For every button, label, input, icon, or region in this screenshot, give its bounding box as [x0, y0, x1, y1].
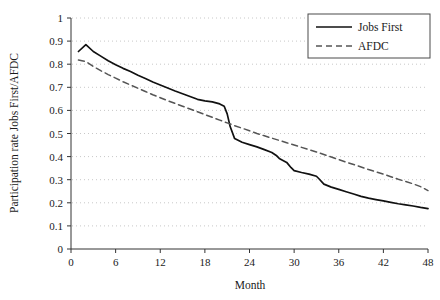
y-tick-label: 0: [58, 243, 64, 255]
x-tick-label: 42: [378, 256, 389, 268]
x-axis-title: Month: [235, 279, 266, 291]
legend-label-afdc: AFDC: [358, 40, 389, 52]
x-tick-label: 18: [199, 256, 211, 268]
y-tick-label: 0.7: [49, 81, 63, 93]
participation-rate-line-chart: 00.10.20.30.40.50.60.70.80.91 0612182430…: [0, 0, 440, 300]
x-tick-label: 6: [113, 256, 119, 268]
y-tick-label: 0.1: [49, 220, 63, 232]
chart-container: 00.10.20.30.40.50.60.70.80.91 0612182430…: [0, 0, 440, 300]
x-tick-label: 30: [289, 256, 301, 268]
legend: Jobs First AFDC: [308, 14, 430, 58]
legend-label-jobs-first: Jobs First: [358, 21, 403, 33]
y-tick-label: 1: [58, 12, 64, 24]
y-tick-label: 0.9: [49, 35, 63, 47]
y-axis-title: Participation rate Jobs First/AFDC: [8, 53, 21, 213]
x-tick-label: 24: [244, 256, 256, 268]
x-tick-label: 36: [333, 256, 345, 268]
y-tick-label: 0.6: [49, 104, 63, 116]
x-tick-label: 12: [155, 256, 166, 268]
x-tick-label: 0: [68, 256, 74, 268]
y-tick-label: 0.2: [49, 197, 63, 209]
y-tick-label: 0.5: [49, 128, 63, 140]
y-tick-label: 0.3: [49, 174, 63, 186]
x-tick-label: 48: [423, 256, 435, 268]
y-tick-label: 0.4: [49, 151, 63, 163]
y-tick-label: 0.8: [49, 58, 63, 70]
